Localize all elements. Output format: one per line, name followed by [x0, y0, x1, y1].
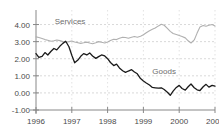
y-axis: [33, 10, 39, 114]
y-axis-tick-label: 3.00: [14, 38, 30, 47]
series-annotations: ServicesGoods: [55, 17, 176, 76]
line-chart: 4.003.002.001.000.00-1.00 19961997199819…: [0, 0, 219, 135]
gridlines-vertical: [72, 10, 215, 110]
x-axis-tick-label: 1997: [63, 117, 81, 126]
series-label-goods: Goods: [152, 67, 176, 76]
y-axis-tick-label: 0.00: [14, 89, 30, 98]
series-line-services: [36, 24, 215, 43]
chart-container: 4.003.002.001.000.00-1.00 19961997199819…: [0, 0, 219, 135]
y-axis-tick-labels: 4.003.002.001.000.00-1.00: [12, 21, 31, 115]
x-axis: [30, 107, 215, 113]
series-label-services: Services: [55, 17, 86, 26]
x-axis-tick-label: 2001: [206, 117, 219, 126]
x-axis-tick-label: 1999: [135, 117, 153, 126]
x-axis-tick-label: 2000: [170, 117, 188, 126]
y-axis-tick-label: 1.00: [14, 72, 30, 81]
x-axis-tick-labels: 199619971998199920002001: [27, 117, 219, 126]
x-axis-tick-label: 1998: [99, 117, 117, 126]
x-axis-tick-label: 1996: [27, 117, 45, 126]
data-series-group: [36, 24, 215, 95]
y-axis-tick-label: 2.00: [14, 55, 30, 64]
y-axis-tick-label: -1.00: [12, 106, 31, 115]
y-axis-tick-label: 4.00: [14, 21, 30, 30]
gridlines-horizontal: [36, 25, 215, 93]
series-line-goods: [36, 41, 215, 95]
